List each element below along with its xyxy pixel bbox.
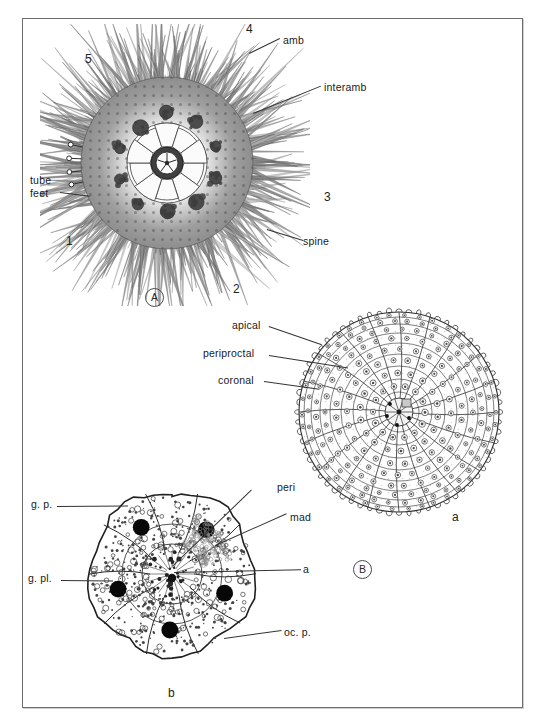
label-ocp: oc. p. (284, 627, 311, 639)
panel-tag-b: B (353, 560, 372, 579)
figure-plate: amb interamb spine tube feet 1 2 3 4 5 A (0, 0, 539, 724)
label-a: a (303, 564, 309, 576)
label-gpl: g. pl. (28, 573, 52, 585)
panel-tag-a: A (145, 288, 164, 307)
label-peri: peri (277, 482, 295, 494)
label-interamb: interamb (324, 82, 366, 94)
plate-frame-border (22, 18, 523, 708)
label-mad: mad (290, 512, 311, 524)
subpanel-tag-a: a (452, 510, 459, 524)
label-gp: g. p. (31, 499, 52, 511)
label-amb: amb (283, 35, 304, 47)
label-coronal: coronal (218, 375, 254, 387)
ray-number-3: 3 (324, 192, 331, 204)
subpanel-tag-b: b (168, 686, 175, 700)
ray-number-2: 2 (233, 284, 240, 296)
label-tube-feet-line2: feet (30, 188, 48, 200)
label-spine: spine (303, 236, 329, 248)
ray-number-5: 5 (85, 54, 92, 66)
label-apical: apical (232, 320, 261, 332)
ray-number-4: 4 (246, 24, 253, 36)
label-tube-feet-line1: tube (30, 175, 51, 187)
ray-number-1: 1 (66, 236, 73, 248)
label-periproctal: periproctal (203, 348, 254, 360)
page-bleed-artifact (70, 711, 470, 721)
